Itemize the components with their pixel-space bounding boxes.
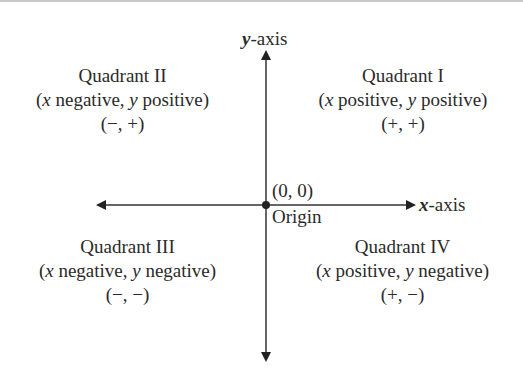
quadrant-4: Quadrant IV (x positive, y negative) (+,… <box>290 235 515 307</box>
axes-graphic <box>0 0 523 370</box>
origin-dot <box>262 201 270 209</box>
quadrant-name: Quadrant I <box>298 64 508 88</box>
quadrant-signs: (+, +) <box>298 112 508 136</box>
quadrant-description: (x positive, y negative) <box>290 259 515 283</box>
quadrant-signs: (−, +) <box>15 112 230 136</box>
quadrant-name: Quadrant III <box>5 235 250 259</box>
quadrant-name: Quadrant II <box>15 64 230 88</box>
y-axis-label: y-axis <box>242 28 287 50</box>
quadrant-description: (x negative, y positive) <box>15 88 230 112</box>
quadrant-1: Quadrant I (x positive, y positive) (+, … <box>298 64 508 136</box>
quadrant-description: (x positive, y positive) <box>298 88 508 112</box>
quadrant-name: Quadrant IV <box>290 235 515 259</box>
origin-coordinates: (0, 0) <box>272 180 313 202</box>
origin-label: Origin <box>272 206 322 228</box>
quadrant-3: Quadrant III (x negative, y negative) (−… <box>5 235 250 307</box>
quadrant-signs: (+, −) <box>290 283 515 307</box>
x-axis-label: x-axis <box>419 194 465 216</box>
quadrant-2: Quadrant II (x negative, y positive) (−,… <box>15 64 230 136</box>
quadrant-signs: (−, −) <box>5 283 250 307</box>
quadrant-description: (x negative, y negative) <box>5 259 250 283</box>
